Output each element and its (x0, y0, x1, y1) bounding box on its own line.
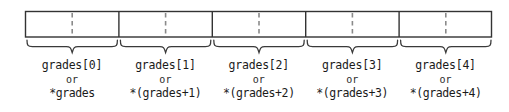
cell-deref-label-0: *grades (26, 87, 119, 100)
cell-or-label-1: or (119, 73, 212, 86)
cell-label-2: grades[2] or *(grades+2) (212, 59, 305, 100)
cell-label-1: grades[1] or *(grades+1) (119, 59, 212, 100)
cell-index-label-0: grades[0] (26, 59, 119, 72)
cell-deref-label-3: *(grades+3) (306, 87, 399, 100)
cell-or-label-0: or (26, 73, 119, 86)
cell-label-0: grades[0] or *grades (26, 59, 119, 100)
cell-or-label-2: or (212, 73, 305, 86)
cell-index-label-2: grades[2] (212, 59, 305, 72)
cell-labels: grades[0] or *grades grades[1] or *(grad… (0, 0, 509, 112)
cell-index-label-1: grades[1] (119, 59, 212, 72)
cell-label-3: grades[3] or *(grades+3) (306, 59, 399, 100)
cell-index-label-3: grades[3] (306, 59, 399, 72)
cell-index-label-4: grades[4] (399, 59, 492, 72)
cell-deref-label-2: *(grades+2) (212, 87, 305, 100)
array-pointer-diagram: grades[0] or *grades grades[1] or *(grad… (0, 0, 509, 112)
cell-or-label-3: or (306, 73, 399, 86)
cell-label-4: grades[4] or *(grades+4) (399, 59, 492, 100)
cell-or-label-4: or (399, 73, 492, 86)
cell-deref-label-4: *(grades+4) (399, 87, 492, 100)
cell-deref-label-1: *(grades+1) (119, 87, 212, 100)
